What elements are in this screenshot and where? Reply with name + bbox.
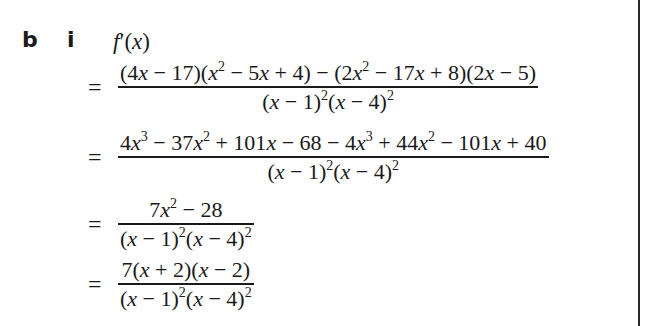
equals-sign: = xyxy=(88,212,116,236)
denominator: (x − 1)2(x − 4)2 xyxy=(260,89,396,114)
numerator: 7x2 − 28 xyxy=(147,197,224,222)
equals-sign: = xyxy=(88,145,116,169)
fraction: 7x2 − 28 (x − 1)2(x − 4)2 xyxy=(118,197,254,251)
numerator: 4x3 − 37x2 + 101x − 68 − 4x3 + 44x2 − 10… xyxy=(118,130,549,155)
step-1: = (4x − 17)(x2 − 5x + 4) − (2x2 − 17x + … xyxy=(88,60,538,114)
fraction-bar xyxy=(118,86,538,88)
denominator: (x − 1)2(x − 4)2 xyxy=(118,286,254,311)
denominator: (x − 1)2(x − 4)2 xyxy=(265,159,401,184)
numerator: (4x − 17)(x2 − 5x + 4) − (2x2 − 17x + 8)… xyxy=(118,60,538,85)
step-4: = 7(x + 2)(x − 2) (x − 1)2(x − 4)2 xyxy=(88,257,254,311)
step-2: = 4x3 − 37x2 + 101x − 68 − 4x3 + 44x2 − … xyxy=(88,130,549,184)
step-3: = 7x2 − 28 (x − 1)2(x − 4)2 xyxy=(88,197,254,251)
page-right-border xyxy=(638,0,640,326)
equals-sign: = xyxy=(88,75,116,99)
part-label: b xyxy=(22,29,38,51)
denominator: (x − 1)2(x − 4)2 xyxy=(118,226,254,251)
derivative-header: f′(x) xyxy=(113,30,150,54)
fraction: (4x − 17)(x2 − 5x + 4) − (2x2 − 17x + 8)… xyxy=(118,60,538,114)
numerator: 7(x + 2)(x − 2) xyxy=(120,257,253,282)
fraction-bar xyxy=(118,156,549,158)
equals-sign: = xyxy=(88,272,116,296)
fraction: 7(x + 2)(x − 2) (x − 1)2(x − 4)2 xyxy=(118,257,254,311)
fraction: 4x3 − 37x2 + 101x − 68 − 4x3 + 44x2 − 10… xyxy=(118,130,549,184)
subpart-label: i xyxy=(67,29,75,51)
